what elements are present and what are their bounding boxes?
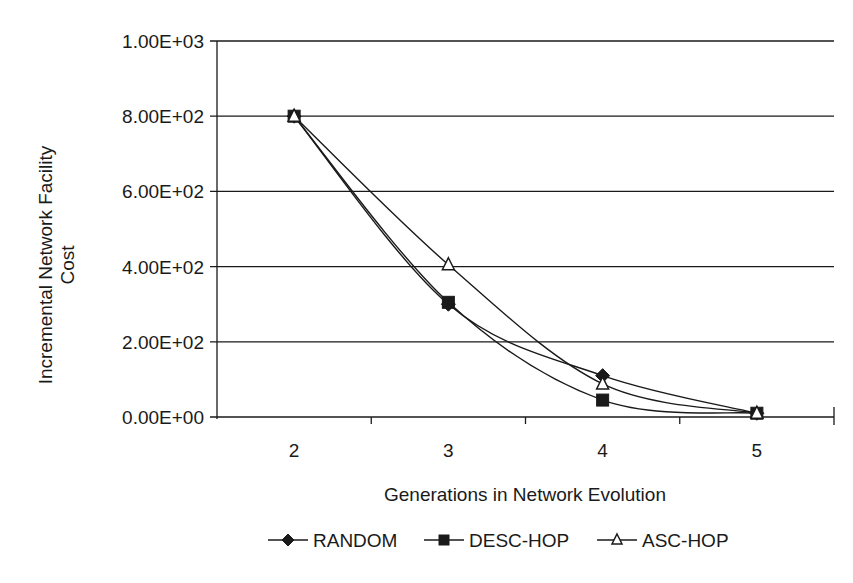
x-axis-tick-labels: 2345 bbox=[289, 440, 762, 461]
legend-item-asc-hop: ASC-HOP bbox=[597, 530, 729, 551]
triangle-marker bbox=[612, 534, 622, 544]
line-chart: 0.00E+002.00E+024.00E+026.00E+028.00E+02… bbox=[0, 0, 853, 583]
series-line-desc-hop bbox=[294, 116, 757, 413]
y-axis-title: Incremental Network FacilityCost bbox=[35, 145, 78, 384]
series-markers bbox=[287, 109, 764, 420]
y-tick-label: 4.00E+02 bbox=[122, 257, 204, 278]
legend-label: RANDOM bbox=[313, 530, 397, 551]
x-tick-label: 2 bbox=[289, 440, 300, 461]
y-tick-label: 2.00E+02 bbox=[122, 332, 204, 353]
y-tick-label: 0.00E+00 bbox=[122, 407, 204, 428]
legend-label: ASC-HOP bbox=[642, 530, 729, 551]
series-line-random bbox=[294, 116, 757, 413]
triangle-marker bbox=[442, 258, 454, 270]
legend-item-random: RANDOM bbox=[268, 530, 397, 551]
x-axis-title: Generations in Network Evolution bbox=[384, 484, 666, 505]
square-marker bbox=[439, 535, 449, 545]
series-line-asc-hop bbox=[294, 116, 757, 413]
square-marker bbox=[442, 296, 454, 308]
series-lines bbox=[294, 116, 757, 413]
x-tick-label: 4 bbox=[597, 440, 608, 461]
x-tick-label: 5 bbox=[752, 440, 763, 461]
y-tick-label: 6.00E+02 bbox=[122, 181, 204, 202]
y-tick-label: 1.00E+03 bbox=[122, 31, 204, 52]
y-axis-tick-labels: 0.00E+002.00E+024.00E+026.00E+028.00E+02… bbox=[122, 31, 204, 428]
diamond-marker bbox=[282, 534, 294, 546]
axes bbox=[217, 41, 834, 425]
legend-label: DESC-HOP bbox=[469, 530, 569, 551]
x-tick-label: 3 bbox=[443, 440, 454, 461]
y-tick-label: 8.00E+02 bbox=[122, 106, 204, 127]
square-marker bbox=[597, 394, 609, 406]
legend: RANDOMDESC-HOPASC-HOP bbox=[268, 530, 729, 551]
legend-item-desc-hop: DESC-HOP bbox=[424, 530, 569, 551]
